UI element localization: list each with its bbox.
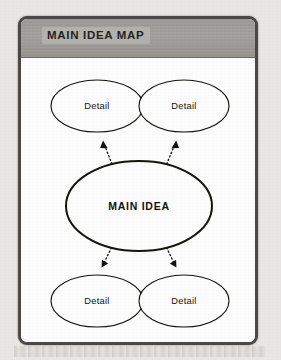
- node-detail-bottom-left[interactable]: Detail: [51, 275, 143, 327]
- node-detail-bottom-right[interactable]: Detail: [139, 275, 229, 327]
- node-detail-top-left[interactable]: Detail: [51, 80, 143, 132]
- scanned-page: MAIN IDEA MAP: [0, 0, 281, 360]
- worksheet-header-band: MAIN IDEA MAP: [21, 19, 255, 58]
- detail-node-label: Detail: [84, 296, 109, 306]
- detail-node-label: Detail: [171, 101, 196, 111]
- scan-smudge: [14, 346, 266, 357]
- node-main-idea[interactable]: MAIN IDEA: [66, 161, 212, 251]
- detail-node-label: Detail: [171, 296, 196, 306]
- detail-node-label: Detail: [84, 101, 109, 111]
- worksheet-frame: MAIN IDEA MAP: [18, 16, 258, 345]
- worksheet-title-box: MAIN IDEA MAP: [42, 27, 150, 44]
- diagram-canvas: Detail Detail MAIN IDEA Detail: [21, 58, 255, 345]
- node-detail-top-right[interactable]: Detail: [139, 80, 229, 132]
- page-title: MAIN IDEA MAP: [47, 28, 144, 42]
- arrow-head-icon: [100, 141, 108, 149]
- arrow-head-icon: [172, 141, 179, 149]
- main-idea-map-diagram: Detail Detail MAIN IDEA Detail: [21, 58, 255, 345]
- main-idea-label: MAIN IDEA: [108, 200, 170, 212]
